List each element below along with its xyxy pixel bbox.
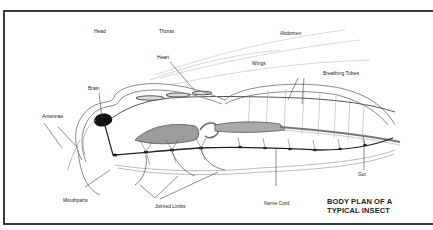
- label-mouthparts: Mouthparts: [63, 197, 88, 203]
- label-nerve-cord: Nerve Cord: [264, 200, 289, 206]
- brain-drawing: [94, 114, 113, 156]
- label-thorax: Thorax: [159, 28, 174, 34]
- label-head: Head: [94, 28, 106, 34]
- title-line-2: TYPICAL INSECT: [327, 207, 392, 216]
- diagram-title: BODY PLAN OF A TYPICAL INSECT: [327, 198, 392, 215]
- gut-drawing: [135, 122, 400, 145]
- legs-drawing: [135, 150, 225, 185]
- label-brain: Brain: [88, 85, 100, 91]
- label-breathing-tubes: Breathing Tubes: [323, 70, 359, 76]
- label-abdomen: Abdomen: [280, 30, 301, 36]
- label-antennae: Antennae: [42, 113, 63, 119]
- label-heart: Heart: [157, 54, 169, 60]
- label-gut: Gut: [358, 171, 366, 177]
- label-jointed-limbs: Jointed Limbs: [155, 203, 186, 209]
- abdomen-outline: [225, 84, 395, 125]
- label-wings: Wings: [252, 60, 266, 66]
- belly-outline: [115, 150, 395, 175]
